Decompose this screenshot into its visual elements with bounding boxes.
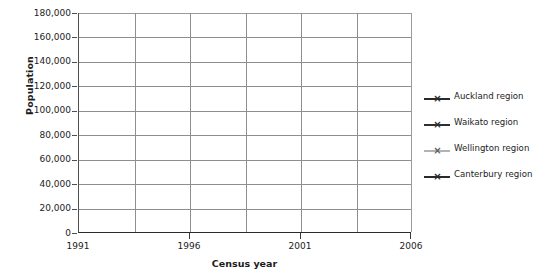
y-axis-tick-label: 0 [0,229,71,238]
legend-cross-marker-icon: × [432,119,443,130]
legend-item-label: Auckland region [454,91,524,101]
plot-area [78,13,411,233]
legend-item[interactable]: ×Waikato region [424,111,537,137]
y-axis-tick-label: 100,000 [0,106,71,115]
y-axis-tick-mark [72,233,77,234]
y-axis-tick-label: 60,000 [0,155,71,164]
legend-item-label: Canterbury region [454,169,532,179]
gridline-vertical [411,13,412,232]
y-axis-tick-mark [72,111,77,112]
y-axis-tick-label: 40,000 [0,180,71,189]
gridline-vertical [301,13,302,232]
x-axis-tick-mark [410,233,411,239]
y-axis-tick-label: 140,000 [0,57,71,66]
legend-item-label: Wellington region [454,143,529,153]
legend-item-label: Waikato region [454,117,518,127]
x-axis-title: Census year [78,258,411,269]
y-axis-tick-label: 180,000 [0,9,71,18]
y-axis-tick-mark [72,160,77,161]
legend-marker-icon: × [424,119,450,131]
population-line-chart: Population 180,000160,000140,000120,0001… [0,0,537,275]
y-axis-tick-mark [72,13,77,14]
y-axis-tick-label: 20,000 [0,204,71,213]
x-axis-tick-label: 2006 [381,241,441,251]
gridline-vertical [190,13,191,232]
x-axis-tick-label: 1991 [48,241,108,251]
legend-marker-icon: × [424,93,450,105]
y-axis-tick-mark [72,184,77,185]
y-axis-tick-mark [72,37,77,38]
legend-cross-marker-icon: × [432,145,443,156]
x-axis-tick-label: 2001 [270,241,330,251]
y-axis-tick-mark [72,135,77,136]
legend-cross-marker-icon: × [432,171,443,182]
y-axis-tick-mark [72,86,77,87]
y-axis-tick-label: 160,000 [0,33,71,42]
x-axis-tick-mark [189,233,190,239]
gridline-vertical [357,13,358,232]
x-axis-tick-label: 1996 [159,241,219,251]
gridline-vertical [246,13,247,232]
y-axis-tick-label: 80,000 [0,131,71,140]
y-axis-tick-labels: 180,000160,000140,000120,000100,00080,00… [0,0,71,275]
y-axis-tick-mark [72,209,77,210]
legend-cross-marker-icon: × [432,93,443,104]
y-axis-tick-label: 120,000 [0,82,71,91]
legend-item[interactable]: ×Auckland region [424,85,537,111]
chart-legend: ×Auckland region×Waikato region×Wellingt… [424,85,537,189]
gridline-vertical [135,13,136,232]
legend-item[interactable]: ×Wellington region [424,137,537,163]
legend-marker-icon: × [424,145,450,157]
x-axis-tick-mark [300,233,301,239]
y-axis-tick-mark [72,62,77,63]
legend-item[interactable]: ×Canterbury region [424,163,537,189]
legend-marker-icon: × [424,171,450,183]
